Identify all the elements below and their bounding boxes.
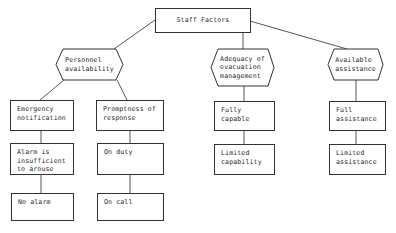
node-staff-factors: Staff Factors bbox=[155, 8, 251, 33]
node-label: notification bbox=[17, 114, 68, 123]
node-label: to arouse bbox=[17, 165, 68, 174]
node-label: Adequacy of bbox=[220, 55, 265, 64]
node-label: availability bbox=[65, 65, 114, 74]
node-label: assistance bbox=[336, 158, 380, 167]
node-label: Promptness of bbox=[103, 105, 158, 114]
node-label: insufficient bbox=[17, 157, 68, 166]
node-on-call: On call bbox=[97, 193, 164, 221]
node-label: Full bbox=[336, 106, 380, 115]
node-label: management bbox=[220, 72, 265, 81]
node-no-alarm: No alarm bbox=[11, 193, 74, 221]
node-label: On call bbox=[104, 198, 158, 207]
node-personnel-availability: Personnel availability bbox=[56, 49, 123, 80]
node-limited-assistance: Limited assistance bbox=[329, 144, 386, 175]
node-alarm-insufficient: Alarm is insufficient to arouse bbox=[10, 143, 74, 175]
node-on-duty: On duty bbox=[97, 143, 164, 175]
node-label: No alarm bbox=[18, 198, 68, 207]
node-label: On duty bbox=[104, 148, 158, 157]
node-label: capability bbox=[221, 158, 269, 167]
edge-personnel-emergency bbox=[40, 80, 64, 100]
edge-personnel-promptness bbox=[117, 80, 127, 100]
node-label: Limited bbox=[221, 149, 269, 158]
node-promptness-of-response: Promptness of response bbox=[96, 100, 164, 131]
node-label: assistance bbox=[336, 115, 380, 124]
node-label: evacuation bbox=[220, 63, 265, 72]
node-label: Limited bbox=[336, 149, 380, 158]
node-label: Emergency bbox=[17, 105, 68, 114]
edge-root-personnel bbox=[114, 20, 155, 49]
node-full-assistance: Full assistance bbox=[329, 101, 386, 131]
node-label: assistance bbox=[335, 65, 376, 74]
node-adequacy-of-evacuation-management: Adequacy of evacuation management bbox=[211, 49, 274, 86]
node-label: response bbox=[103, 114, 158, 123]
node-label: Fully bbox=[221, 106, 269, 115]
node-fully-capable: Fully capable bbox=[214, 101, 275, 131]
node-label: Personnel bbox=[65, 56, 114, 65]
node-label: Staff Factors bbox=[177, 16, 230, 25]
edge-root-assistance bbox=[250, 21, 347, 49]
node-label: capable bbox=[221, 115, 269, 124]
node-emergency-notification: Emergency notification bbox=[10, 100, 74, 131]
node-label: Available bbox=[335, 56, 376, 65]
node-limited-capability: Limited capability bbox=[214, 144, 275, 175]
node-available-assistance: Available assistance bbox=[328, 49, 383, 80]
node-label: Alarm is bbox=[17, 148, 68, 157]
